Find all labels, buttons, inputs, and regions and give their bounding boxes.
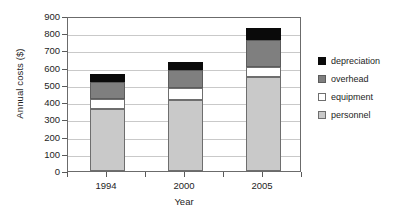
bar-segment-depreciation[interactable] bbox=[90, 74, 125, 82]
bar-segment-equipment[interactable] bbox=[246, 67, 281, 77]
bar-segment-depreciation[interactable] bbox=[168, 62, 203, 71]
y-axis-tick bbox=[62, 34, 67, 35]
bar-segment-overhead[interactable] bbox=[246, 40, 281, 67]
x-axis-tick bbox=[67, 172, 68, 177]
bar-segment-equipment[interactable] bbox=[168, 88, 203, 99]
chart-legend: depreciationoverheadequipmentpersonnel bbox=[318, 52, 380, 124]
y-axis-label: 600 bbox=[44, 64, 60, 74]
legend-label: personnel bbox=[331, 110, 371, 120]
legend-swatch-depreciation-icon bbox=[318, 57, 326, 65]
y-axis-label: 400 bbox=[44, 98, 60, 108]
stacked-bar-chart: Annual costs ($) 90080070060050040030020… bbox=[0, 0, 399, 217]
legend-label: overhead bbox=[331, 74, 369, 84]
legend-label: depreciation bbox=[331, 56, 380, 66]
y-axis-tick bbox=[62, 86, 67, 87]
x-axis-title: Year bbox=[67, 196, 301, 207]
y-axis-label: 200 bbox=[44, 133, 60, 143]
y-axis-tick bbox=[62, 17, 67, 18]
x-axis-label-1994: 1994 bbox=[76, 180, 136, 191]
y-axis-tick bbox=[62, 120, 67, 121]
legend-swatch-personnel-icon bbox=[318, 111, 326, 119]
x-axis-tick bbox=[223, 172, 224, 177]
legend-item-overhead[interactable]: overhead bbox=[318, 70, 380, 88]
bar-segment-personnel[interactable] bbox=[246, 77, 281, 171]
bar-segment-equipment[interactable] bbox=[90, 99, 125, 109]
bar-segment-overhead[interactable] bbox=[168, 70, 203, 88]
legend-swatch-equipment-icon bbox=[318, 93, 326, 101]
x-axis-tick bbox=[145, 172, 146, 177]
bar-segment-overhead[interactable] bbox=[90, 82, 125, 99]
x-axis-tick bbox=[262, 172, 263, 177]
legend-item-equipment[interactable]: equipment bbox=[318, 88, 380, 106]
y-axis-tick bbox=[62, 51, 67, 52]
y-axis-label: 900 bbox=[44, 12, 60, 22]
legend-swatch-overhead-icon bbox=[318, 75, 326, 83]
x-axis-label-2005: 2005 bbox=[232, 180, 292, 191]
legend-item-personnel[interactable]: personnel bbox=[318, 106, 380, 124]
y-axis-tick bbox=[62, 103, 67, 104]
y-axis-label: 100 bbox=[44, 150, 60, 160]
y-axis-label: 300 bbox=[44, 115, 60, 125]
y-axis-tick bbox=[62, 69, 67, 70]
bar-2000[interactable] bbox=[168, 16, 203, 171]
y-axis-tick-labels: 9008007006005004003002001000 bbox=[30, 0, 60, 217]
x-axis-label-2000: 2000 bbox=[154, 180, 214, 191]
x-axis-tick bbox=[184, 172, 185, 177]
y-axis-label: 500 bbox=[44, 81, 60, 91]
bar-segment-personnel[interactable] bbox=[90, 109, 125, 171]
legend-label: equipment bbox=[331, 92, 373, 102]
bar-segment-depreciation[interactable] bbox=[246, 28, 281, 40]
x-axis-tick bbox=[106, 172, 107, 177]
y-axis-label: 700 bbox=[44, 46, 60, 56]
plot-area bbox=[67, 17, 301, 172]
y-axis-title: Annual costs ($) bbox=[14, 14, 25, 154]
bar-1994[interactable] bbox=[90, 16, 125, 171]
y-axis-label: 0 bbox=[55, 167, 60, 177]
y-axis-tick bbox=[62, 155, 67, 156]
y-axis-label: 800 bbox=[44, 29, 60, 39]
bar-2005[interactable] bbox=[246, 16, 281, 171]
y-axis-tick bbox=[62, 138, 67, 139]
bar-segment-personnel[interactable] bbox=[168, 100, 203, 171]
legend-item-depreciation[interactable]: depreciation bbox=[318, 52, 380, 70]
x-axis-tick bbox=[301, 172, 302, 177]
